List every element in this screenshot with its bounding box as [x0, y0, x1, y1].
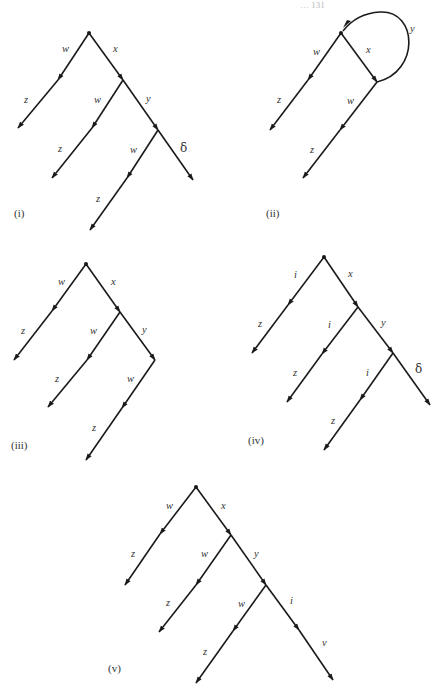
- edge-y: [120, 312, 155, 360]
- edge-label: w: [201, 548, 208, 559]
- edge-label: y: [380, 317, 386, 328]
- edge-label: z: [57, 143, 62, 154]
- edge-label: w: [313, 46, 320, 57]
- edge-y: [358, 307, 393, 353]
- edge-label: x: [110, 276, 116, 287]
- edge-label: z: [276, 94, 281, 105]
- edge-label: z: [95, 193, 100, 204]
- edge-label: x: [220, 500, 226, 511]
- diagram-ii: wzxwzy(ii): [266, 12, 415, 220]
- diagram-caption: (ii): [266, 207, 280, 220]
- edge-label: w: [127, 373, 134, 384]
- edge-label: y: [145, 93, 151, 104]
- edge-label: z: [54, 373, 59, 384]
- edge-i: [322, 307, 358, 354]
- edge-label: i: [328, 319, 331, 330]
- edge-label: y: [141, 324, 147, 335]
- edge-z: [86, 408, 122, 460]
- edge-x: [324, 257, 358, 307]
- edge-x: [196, 487, 231, 535]
- edge-delta: [158, 130, 193, 180]
- edge-label: w: [238, 598, 245, 609]
- edge-label: i: [294, 269, 297, 280]
- edge-w: [196, 535, 231, 585]
- edge-w: [340, 82, 377, 130]
- diagram-caption: (iii): [11, 439, 28, 452]
- edge-label: z: [23, 94, 28, 105]
- edge-w: [87, 312, 120, 360]
- edge-z: [287, 354, 322, 402]
- edge-label: i: [366, 367, 369, 378]
- edge-label: δ: [180, 141, 187, 155]
- edge-label: v: [322, 637, 327, 648]
- diagram-i: wzxwzywzδ(i): [14, 31, 193, 230]
- loop-edge-y: [343, 12, 409, 82]
- edge-label: w: [58, 276, 65, 287]
- diagram-iii: wzxwzywz(iii): [11, 262, 155, 460]
- edge-label: z: [330, 415, 335, 426]
- edge-x: [86, 264, 120, 312]
- edge-label: i: [290, 595, 293, 606]
- edge-label: z: [309, 144, 314, 155]
- edge-z: [159, 585, 196, 632]
- edge-y: [231, 535, 266, 585]
- edge-i: [360, 353, 393, 400]
- diagram-caption: (iv): [248, 434, 264, 447]
- edge-z: [48, 360, 87, 407]
- diagram-iv: izxizyizδ(iv): [248, 255, 430, 450]
- diagram-v: wzxwzywziv(v): [108, 485, 333, 683]
- edge-w: [52, 264, 86, 311]
- edge-z: [324, 400, 360, 450]
- edge-z: [14, 311, 52, 360]
- edge-label: δ: [415, 362, 422, 376]
- edge-label: z: [202, 646, 207, 657]
- edge-z: [303, 130, 340, 178]
- edge-label: z: [20, 325, 25, 336]
- edge-x: [341, 33, 377, 82]
- edge-label: w: [62, 43, 69, 54]
- edge-label: z: [130, 548, 135, 559]
- edge-i: [266, 585, 299, 630]
- edge-v: [299, 630, 333, 680]
- figure-canvas: … 131 wzxwzywzδ(i)wzxwzy(ii)wzxwzywz(iii…: [0, 0, 445, 699]
- edge-label: w: [90, 325, 97, 336]
- edge-label: w: [166, 500, 173, 511]
- edge-z: [90, 178, 127, 230]
- edge-label: w: [130, 144, 137, 155]
- diagram-caption: (v): [108, 662, 121, 675]
- edge-x: [89, 33, 123, 80]
- edge-label: x: [365, 44, 371, 55]
- edge-z: [270, 80, 308, 130]
- edge-label: w: [94, 94, 101, 105]
- edge-label: y: [253, 548, 259, 559]
- edge-y: [123, 80, 158, 130]
- edge-label: w: [347, 95, 354, 106]
- running-header: … 131: [300, 0, 325, 10]
- edge-label: y: [409, 23, 415, 34]
- edge-z: [252, 305, 288, 353]
- diagrams-layer: wzxwzywzδ(i)wzxwzy(ii)wzxwzywz(iii)izxiz…: [11, 12, 430, 683]
- edge-label: x: [112, 43, 118, 54]
- edge-label: z: [257, 318, 262, 329]
- edge-delta: [393, 353, 430, 405]
- edge-label: z: [292, 367, 297, 378]
- edge-z: [196, 631, 233, 683]
- diagram-caption: (i): [14, 207, 25, 220]
- edge-w: [122, 360, 155, 408]
- edge-i: [288, 257, 324, 305]
- edge-w: [58, 33, 89, 80]
- edge-label: z: [165, 597, 170, 608]
- edge-z: [125, 534, 160, 585]
- edge-label: z: [91, 422, 96, 433]
- edge-label: x: [347, 268, 353, 279]
